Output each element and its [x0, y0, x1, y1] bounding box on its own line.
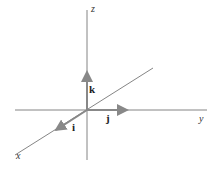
- y-axis-label: y: [199, 113, 203, 124]
- x-axis-label: x: [16, 150, 20, 161]
- vector-i-label: i: [72, 121, 75, 133]
- vector-j-label: j: [106, 112, 110, 124]
- z-axis-label: z: [91, 3, 95, 14]
- vector-k-label: k: [89, 83, 95, 95]
- axes-diagram: [0, 0, 217, 170]
